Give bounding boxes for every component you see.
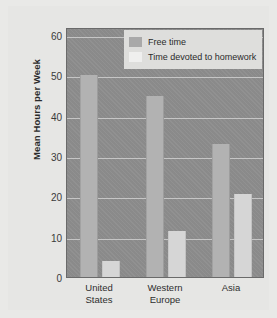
- x-axis-tick-label: United States: [85, 282, 112, 305]
- bar: [146, 96, 164, 278]
- legend-item: Free time: [129, 34, 257, 49]
- legend-label: Time devoted to homework: [148, 52, 256, 62]
- bar: [212, 144, 230, 277]
- chart-figure: Mean Hours per Week 0102030405060 United…: [0, 0, 277, 318]
- legend-label: Free time: [148, 37, 186, 47]
- bar: [102, 261, 120, 277]
- x-axis-tick-label: Western Europe: [147, 282, 182, 305]
- chart-legend: Free time Time devoted to homework: [124, 30, 262, 69]
- y-axis-tick-label: 20: [38, 192, 62, 203]
- legend-swatch-homework-icon: [129, 52, 142, 62]
- y-axis-tick-label: 60: [38, 31, 62, 42]
- bar: [168, 231, 186, 277]
- x-axis-tick-label: Asia: [222, 282, 240, 294]
- y-axis-tick-label: 50: [38, 71, 62, 82]
- bar: [234, 194, 252, 277]
- y-axis-tick-labels: 0102030405060: [34, 28, 62, 278]
- figure-panel: Mean Hours per Week 0102030405060 United…: [8, 6, 269, 310]
- y-axis-tick-label: 30: [38, 152, 62, 163]
- y-axis-tick-label: 10: [38, 232, 62, 243]
- legend-swatch-free-time-icon: [129, 37, 142, 47]
- y-axis-tick-label: 40: [38, 111, 62, 122]
- x-axis-tick-labels: United StatesWestern EuropeAsia: [66, 282, 264, 316]
- bar: [80, 75, 98, 277]
- legend-item: Time devoted to homework: [129, 49, 257, 64]
- y-axis-tick-label: 0: [38, 273, 62, 284]
